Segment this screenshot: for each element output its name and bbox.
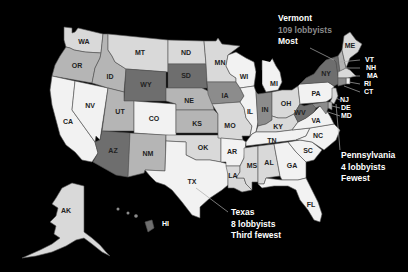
state-label-me: ME <box>345 42 356 49</box>
state-label-mo: MO <box>224 122 236 129</box>
state-label-ne: NE <box>184 97 194 104</box>
state-label-wy: WY <box>140 81 152 88</box>
state-label-wa: WA <box>78 38 89 45</box>
state-label-ri: RI <box>364 80 371 87</box>
state-label-mi: MI <box>270 80 278 87</box>
state-label-nc: NC <box>313 132 323 139</box>
state-label-ct: CT <box>364 88 374 95</box>
annotation-vermont: Vermont 109 lobbyists Most <box>278 13 332 48</box>
state-label-or: OR <box>72 62 83 69</box>
annotation-count: 8 lobbyists <box>231 219 281 231</box>
annotation-rank: Fewest <box>341 173 395 185</box>
state-ri[interactable] <box>346 78 350 84</box>
state-label-md: MD <box>341 112 352 119</box>
annotation-state: Texas <box>231 207 281 219</box>
annotation-count: 109 lobbyists <box>278 25 332 37</box>
state-label-sd: SD <box>181 72 191 79</box>
hi-island <box>134 214 138 218</box>
state-label-il: IL <box>247 108 254 115</box>
state-label-id: ID <box>107 73 114 80</box>
state-label-in: IN <box>262 106 269 113</box>
state-label-ca: CA <box>63 118 73 125</box>
hi-island <box>117 208 120 211</box>
state-label-nv: NV <box>85 102 95 109</box>
state-label-ky: KY <box>273 123 283 130</box>
state-label-wv: WV <box>294 109 306 116</box>
state-label-wi: WI <box>240 73 249 80</box>
state-label-tx: TX <box>188 178 197 185</box>
state-label-va: VA <box>311 117 320 124</box>
us-choropleth-map: WAORCANVIDMTWYUTCOAZNMNDSDNEKSOKTXMNIAMO… <box>0 0 408 272</box>
state-label-vt: VT <box>365 56 375 63</box>
state-label-al: AL <box>264 159 274 166</box>
state-label-la: LA <box>228 172 237 179</box>
state-label-nd: ND <box>181 49 191 56</box>
annotation-rank: Third fewest <box>231 230 281 242</box>
annotation-pennsylvania: Pennsylvania 4 lobbyists Fewest <box>341 150 395 185</box>
state-label-ak: AK <box>61 207 71 214</box>
annotation-rank: Most <box>278 36 332 48</box>
state-label-de: DE <box>341 104 351 111</box>
state-label-ok: OK <box>198 144 209 151</box>
state-label-ms: MS <box>247 162 258 169</box>
state-label-fl: FL <box>307 201 316 208</box>
state-label-nm: NM <box>143 150 154 157</box>
annotation-state: Pennsylvania <box>341 150 395 162</box>
hi-island <box>127 212 130 215</box>
state-label-az: AZ <box>108 147 118 154</box>
state-label-oh: OH <box>281 100 292 107</box>
state-label-mn: MN <box>215 59 226 66</box>
state-label-nj: NJ <box>340 96 349 103</box>
state-label-ny: NY <box>321 70 331 77</box>
state-label-mt: MT <box>135 49 146 56</box>
state-label-nh: NH <box>366 64 376 71</box>
state-label-ar: AR <box>227 148 237 155</box>
state-label-ma: MA <box>367 72 378 79</box>
state-label-tn: TN <box>267 137 276 144</box>
state-label-pa: PA <box>311 90 320 97</box>
state-label-ia: IA <box>222 92 229 99</box>
state-label-hi: HI <box>162 220 169 227</box>
annotation-texas: Texas 8 lobbyists Third fewest <box>231 207 281 242</box>
state-label-sc: SC <box>303 147 313 154</box>
state-label-co: CO <box>149 115 160 122</box>
annotation-count: 4 lobbyists <box>341 162 395 174</box>
annotation-state: Vermont <box>278 13 332 25</box>
state-label-ut: UT <box>115 108 125 115</box>
state-label-ks: KS <box>192 120 202 127</box>
state-label-ga: GA <box>287 162 298 169</box>
